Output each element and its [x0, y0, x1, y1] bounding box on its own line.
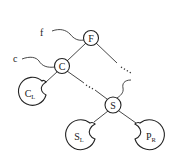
- tree-diagram: f c F C S: [0, 0, 173, 165]
- edge-f-right: [96, 43, 131, 73]
- edge-f-c: [67, 43, 86, 61]
- svg-text:S: S: [110, 100, 116, 111]
- pointer-s: [117, 80, 131, 98]
- pointer-s-curve: [117, 80, 131, 98]
- pointer-c: c: [13, 53, 55, 67]
- node-f: F: [84, 31, 99, 46]
- pointer-f-label: f: [40, 27, 44, 38]
- edge-c-cl: [46, 71, 58, 82]
- pointer-f: f: [40, 27, 84, 40]
- pointer-c-curve: [22, 57, 55, 67]
- edge-s-sl: [94, 111, 108, 122]
- pointer-c-label: c: [13, 53, 18, 64]
- node-s: S: [105, 97, 121, 113]
- svg-text:C: C: [59, 61, 66, 72]
- subtree-cl: CL: [19, 77, 46, 105]
- subtree-pr: PR: [135, 120, 164, 150]
- pointer-f-curve: [52, 30, 84, 41]
- node-c: C: [55, 59, 70, 74]
- svg-text:F: F: [88, 33, 94, 44]
- edge-c-s: [67, 71, 107, 99]
- edge-s-pr: [119, 111, 136, 123]
- subtree-sl: SL: [66, 120, 95, 150]
